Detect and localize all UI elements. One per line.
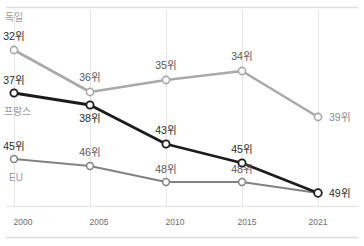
point-label-germany-2010: 35위 — [155, 59, 177, 71]
axis-tick-2000: 2000 — [14, 217, 33, 227]
series-eu-point — [163, 179, 170, 186]
series-germany-point — [86, 88, 93, 95]
axis-tick-2010: 2010 — [166, 217, 185, 227]
point-label-france-2021: 49위 — [329, 187, 351, 199]
point-label-eu-2000: 45위 — [3, 140, 25, 152]
rank-trend-line-chart: 독일 프랑스 EU 32위 36위 35위 34위 39위 37위 38위 43… — [0, 0, 364, 246]
series-eu-point — [239, 179, 246, 186]
series-france-point — [162, 140, 169, 147]
point-label-germany-2000: 32위 — [3, 30, 25, 42]
series-france-point — [314, 189, 322, 197]
point-label-germany-2005: 36위 — [79, 71, 101, 83]
point-label-france-2005: 38위 — [79, 112, 101, 124]
series-label-eu: EU — [9, 172, 23, 183]
point-label-france-2000: 37위 — [3, 74, 25, 86]
series-france-point — [86, 101, 93, 108]
series-germany-point — [314, 113, 321, 120]
axis-tick-2015: 2015 — [238, 217, 257, 227]
chart-canvas: 독일 프랑스 EU 32위 36위 35위 34위 39위 37위 38위 43… — [0, 0, 364, 246]
series-eu-point — [87, 163, 94, 170]
point-label-eu-2010: 48위 — [155, 163, 177, 175]
point-label-germany-2021: 39위 — [329, 111, 351, 123]
point-label-eu-2015: 48위 — [231, 163, 253, 175]
series-germany-point — [10, 46, 17, 53]
point-label-france-2010: 43위 — [155, 124, 177, 136]
vertical-gridlines — [15, 11, 319, 206]
series-label-france: 프랑스 — [4, 106, 31, 117]
point-label-eu-2005: 46위 — [79, 146, 101, 158]
axis-tick-2021: 2021 — [309, 217, 328, 227]
series-label-germany: 독일 — [5, 12, 23, 23]
series-france-point — [10, 89, 17, 96]
series-eu-point — [11, 156, 18, 163]
point-label-france-2015: 45위 — [231, 143, 253, 155]
point-label-germany-2015: 34위 — [231, 50, 253, 62]
series-germany-point — [162, 76, 169, 83]
series-germany-point — [238, 67, 245, 74]
axis-tick-2005: 2005 — [90, 217, 109, 227]
